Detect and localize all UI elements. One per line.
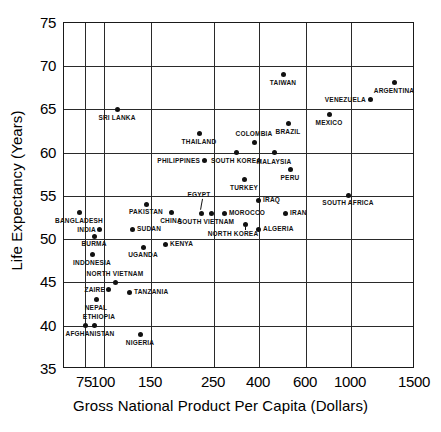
point-label: TURKEY <box>230 185 258 192</box>
point-label: SRI LANKA <box>98 115 135 122</box>
data-point <box>252 140 257 145</box>
y-tick-75: 75 <box>22 15 56 30</box>
data-point <box>327 112 332 117</box>
point-label: VENEZUELA <box>325 97 366 104</box>
point-label: PHILIPPINES <box>157 158 200 165</box>
gridline-y-40 <box>64 326 413 327</box>
data-point <box>392 80 397 85</box>
data-point <box>286 121 291 126</box>
data-point <box>209 211 214 216</box>
point-label: SUDAN <box>137 226 161 233</box>
point-label: MOROCCO <box>229 210 265 217</box>
point-label: ALGERIA <box>263 226 294 233</box>
point-label: AFGHANISTAN <box>65 331 114 338</box>
x-tick-250: 250 <box>191 374 235 389</box>
leader-line-egypt <box>200 199 203 210</box>
point-label: INDIA <box>77 227 96 234</box>
point-label: BRAZIL <box>275 129 300 136</box>
data-point <box>97 227 102 232</box>
data-point <box>346 193 351 198</box>
gridline-x-400 <box>259 23 260 367</box>
point-label: BANGLADESH <box>55 218 103 225</box>
point-label: EGYPT <box>187 192 210 199</box>
x-tick-100: 100 <box>81 374 125 389</box>
point-label: PAKISTAN <box>129 209 163 216</box>
data-point <box>222 211 227 216</box>
gridline-x-250 <box>214 23 215 367</box>
data-point <box>199 211 204 216</box>
point-label: BURMA <box>81 241 106 248</box>
gridline-x-1000 <box>351 23 352 367</box>
data-point <box>90 252 95 257</box>
y-tick-65: 65 <box>22 101 56 116</box>
x-tick-600: 600 <box>283 374 327 389</box>
point-label: SOUTH KOREA <box>211 158 261 165</box>
data-point <box>288 167 293 172</box>
data-point <box>197 131 202 136</box>
data-point <box>256 198 261 203</box>
point-label: TAIWAN <box>270 80 296 87</box>
point-label: UGANDA <box>128 252 158 259</box>
data-point <box>243 222 248 227</box>
data-point <box>106 287 111 292</box>
gridline-y-60 <box>64 153 413 154</box>
y-tick-35: 35 <box>22 361 56 376</box>
plot-area: SRI LANKATAIWANARGENTINAVENEZUELAMEXICOB… <box>63 22 414 368</box>
x-tick-1500: 1500 <box>392 374 436 389</box>
data-point <box>163 242 168 247</box>
point-label: PERU <box>281 175 300 182</box>
gridline-y-50 <box>64 239 413 240</box>
point-label: MALAYSIA <box>257 159 292 166</box>
data-point <box>138 332 143 337</box>
y-tick-50: 50 <box>22 231 56 246</box>
data-point <box>283 211 288 216</box>
point-label: THAILAND <box>182 139 217 146</box>
data-point <box>92 234 97 239</box>
data-point <box>368 97 373 102</box>
y-tick-70: 70 <box>22 58 56 73</box>
data-point <box>234 150 239 155</box>
point-label: ETHIOPIA <box>83 314 115 321</box>
point-label: IRAQ <box>263 197 280 204</box>
data-point <box>127 290 132 295</box>
data-point <box>130 227 135 232</box>
data-point <box>141 245 146 250</box>
leader-line-north-korea <box>245 227 246 230</box>
x-tick-150: 150 <box>128 374 172 389</box>
gridline-y-70 <box>64 66 413 67</box>
y-tick-60: 60 <box>22 145 56 160</box>
data-point <box>256 227 261 232</box>
point-label: KENYA <box>170 241 193 248</box>
data-point <box>94 297 99 302</box>
data-point <box>83 323 88 328</box>
data-point <box>202 158 207 163</box>
data-point <box>242 177 247 182</box>
data-point <box>144 202 149 207</box>
point-label: ZAIRE <box>85 287 106 294</box>
point-label: MEXICO <box>316 120 343 127</box>
data-point <box>77 210 82 215</box>
point-label: INDONESIA <box>73 260 111 267</box>
data-point <box>113 280 118 285</box>
point-label: NIGERIA <box>126 340 155 347</box>
y-tick-40: 40 <box>22 318 56 333</box>
point-label: IRAN <box>290 210 307 217</box>
gridline-y-55 <box>64 196 413 197</box>
point-label: COLOMBIA <box>236 131 273 138</box>
data-point <box>272 150 277 155</box>
point-label: NORTH KOREA <box>208 231 259 238</box>
scatter-chart: SRI LANKATAIWANARGENTINAVENEZUELAMEXICOB… <box>0 0 441 432</box>
point-label: SOUTH AFRICA <box>322 200 373 207</box>
gridline-x-600 <box>306 23 307 367</box>
gridline-x-150 <box>151 23 152 367</box>
x-tick-400: 400 <box>236 374 280 389</box>
point-label: TANZANIA <box>134 289 168 296</box>
x-tick-1000: 1000 <box>328 374 372 389</box>
point-label: NORTH VIETNAM <box>87 271 144 278</box>
point-label: NEPAL <box>85 305 108 312</box>
y-tick-55: 55 <box>22 188 56 203</box>
y-axis-title: Life Expectancy (Years) <box>8 76 25 306</box>
data-point <box>281 72 286 77</box>
point-label: ARGENTINA <box>374 88 414 95</box>
data-point <box>115 107 120 112</box>
